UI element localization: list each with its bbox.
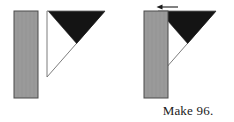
before-panel [14, 11, 105, 98]
after-panel [144, 5, 216, 98]
figure-canvas: Make 96. [0, 0, 234, 122]
seam-direction-arrow [157, 5, 179, 10]
make-count-caption: Make 96. [150, 103, 226, 118]
